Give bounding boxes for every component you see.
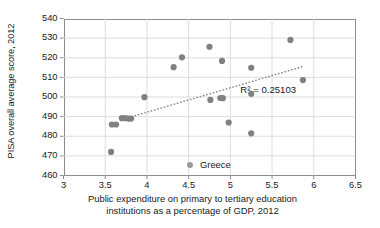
y-axis-tick-label: 520 (18, 53, 58, 62)
x-axis-tick-label: 6 (294, 181, 334, 190)
x-axis-tick-label: 4 (127, 181, 167, 190)
plot-area (64, 19, 356, 176)
x-axis-tick-label: 3 (44, 181, 84, 190)
x-axis-tick-label: 3.5 (85, 181, 125, 190)
r-squared-annotation: R² = 0.25103 (240, 84, 296, 95)
x-axis-title-line2: institutions as a percentage of GDP, 201… (106, 205, 278, 216)
y-axis-tick-label: 530 (18, 33, 58, 42)
legend-label-greece: Greece (200, 159, 231, 170)
x-axis-tick-label: 6.5 (336, 181, 376, 190)
y-axis-tick-label: 480 (18, 131, 58, 140)
x-axis-title-line1: Public expenditure on primary to tertiar… (88, 193, 297, 204)
x-axis-tick-label: 5.5 (252, 181, 292, 190)
chart-legend: Greece (187, 159, 231, 170)
y-axis-tick-label: 500 (18, 92, 58, 101)
y-axis-tick-label: 510 (18, 73, 58, 82)
y-axis-title-text: PISA overall average score, 2012 (6, 24, 16, 159)
y-axis-tick-label: 460 (18, 171, 58, 180)
y-axis-tick-label: 490 (18, 112, 58, 121)
y-axis-tick-label: 470 (18, 151, 58, 160)
legend-marker-greece (187, 162, 193, 168)
x-axis-title: Public expenditure on primary to tertiar… (30, 193, 355, 218)
y-axis-tick-label: 540 (18, 14, 58, 23)
x-axis-tick-label: 5 (210, 181, 250, 190)
scatter-chart: PISA overall average score, 2012 4604704… (0, 0, 380, 228)
x-axis-tick-label: 4.5 (169, 181, 209, 190)
